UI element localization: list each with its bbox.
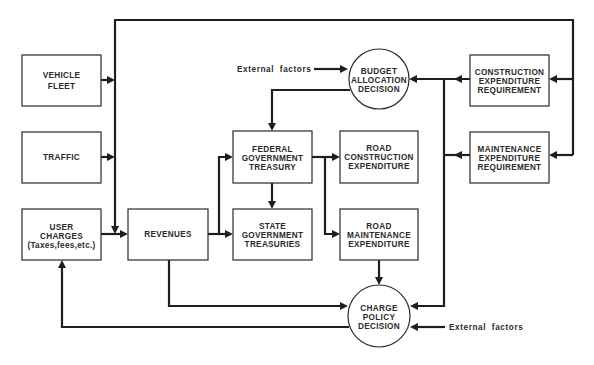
- external-factors-top-label: External factors: [237, 65, 311, 74]
- node-label: DECISION: [358, 322, 400, 331]
- arrow-head: [375, 277, 383, 285]
- node-user-charges: USER CHARGES (Taxes,fees,etc.): [22, 209, 101, 260]
- node-budget-decision: BUDGET ALLOCATION DECISION: [349, 49, 409, 109]
- node-federal-treasury: FEDERAL GOVERNMENT TREASURY: [233, 131, 312, 183]
- arrow-head: [268, 123, 276, 131]
- arrow-head: [409, 75, 417, 83]
- node-maintenance-requirement: MAINTENANCE EXPENDITURE REQUIREMENT: [470, 132, 549, 183]
- node-construction-requirement: CONSTRUCTION EXPENDITURE REQUIREMENT: [470, 55, 549, 106]
- node-road-construction: ROAD CONSTRUCTION EXPENDITURE: [340, 131, 418, 183]
- arrow-head: [58, 260, 66, 268]
- node-label: EXPENDITURE: [348, 162, 410, 171]
- node-label: STATE: [259, 222, 286, 231]
- external-factors-bottom-label: External factors: [449, 323, 523, 332]
- node-label: GOVERNMENT: [242, 231, 304, 240]
- node-charge-decision: CHARGE POLICY DECISION: [348, 285, 410, 347]
- node-label: CONSTRUCTION: [344, 153, 414, 162]
- node-label: GOVERNMENT: [242, 154, 304, 163]
- node-label: TRAFFIC: [43, 153, 80, 162]
- arrow-head: [332, 230, 340, 238]
- node-label: ROAD: [366, 144, 391, 153]
- node-label: BUDGET: [361, 67, 397, 76]
- node-label: TREASURY: [249, 163, 296, 172]
- arrow-head: [340, 65, 348, 73]
- node-label: CHARGE: [360, 304, 398, 313]
- node-label: CHARGES: [40, 232, 83, 241]
- edge-charge-user-charges: [62, 267, 349, 327]
- node-road-maintenance: ROAD MAINTENANCE EXPENDITURE: [340, 209, 418, 260]
- node-label: USER: [50, 223, 74, 232]
- edge-revenues-charge: [169, 260, 341, 306]
- node-label: ALLOCATION: [351, 76, 407, 85]
- arrow-head: [107, 76, 115, 84]
- node-revenues: REVENUES: [128, 209, 208, 260]
- arrow-head: [225, 230, 233, 238]
- arrow-head: [549, 151, 557, 159]
- node-label: REQUIREMENT: [478, 86, 542, 95]
- node-label: FLEET: [48, 82, 75, 91]
- arrow-head: [332, 153, 340, 161]
- node-vehicle-fleet: VEHICLE FLEET: [22, 55, 101, 106]
- arrow-head: [107, 153, 115, 161]
- arrow-head: [225, 153, 233, 161]
- node-label: VEHICLE: [43, 71, 81, 80]
- edge-revenues-federal: [219, 157, 226, 234]
- arrow-head: [410, 323, 418, 331]
- node-label: ROAD: [366, 222, 391, 231]
- edge-budget-federal: [272, 90, 350, 124]
- node-label: CONSTRUCTION: [475, 68, 545, 77]
- node-label: EXPENDITURE: [348, 240, 410, 249]
- node-label: FEDERAL: [252, 145, 293, 154]
- arrow-head: [340, 302, 348, 310]
- arrow-head: [454, 151, 462, 159]
- node-label: POLICY: [363, 313, 396, 322]
- node-label: REVENUES: [144, 230, 192, 239]
- node-label: EXPENDITURE: [479, 154, 541, 163]
- arrow-head: [268, 201, 276, 209]
- node-label: (Taxes,fees,etc.): [27, 241, 95, 250]
- node-label: DECISION: [358, 85, 400, 94]
- arrow-head: [120, 230, 128, 238]
- node-label: MAINTENANCE: [347, 231, 411, 240]
- node-label: TREASURIES: [245, 240, 301, 249]
- node-label: EXPENDITURE: [479, 77, 541, 86]
- edge-collector-charge: [417, 79, 444, 306]
- arrow-head: [549, 75, 557, 83]
- arrow-head: [454, 75, 462, 83]
- arrow-head: [111, 226, 119, 234]
- node-label: REQUIREMENT: [478, 163, 542, 172]
- top-feedback-loop: [115, 20, 573, 228]
- edge-federal-maintenance: [325, 157, 333, 234]
- arrow-head: [410, 302, 418, 310]
- node-label: MAINTENANCE: [478, 145, 542, 154]
- flow-diagram: VEHICLE FLEET TRAFFIC USER CHARGES (Taxe…: [0, 0, 594, 365]
- node-traffic: TRAFFIC: [22, 132, 101, 183]
- node-state-treasuries: STATE GOVERNMENT TREASURIES: [233, 209, 312, 260]
